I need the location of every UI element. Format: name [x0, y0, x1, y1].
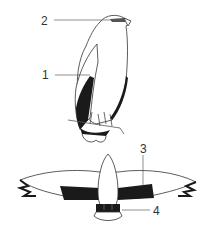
flying-eagle: [20, 154, 196, 221]
perched-eagle: [68, 15, 131, 142]
callout-4: 4: [153, 205, 160, 217]
callout-1: 1: [42, 69, 49, 81]
left-wing-band: [60, 186, 100, 200]
callout-2: 2: [41, 15, 48, 27]
flight-tail: [94, 212, 122, 221]
callout-3: 3: [140, 143, 147, 155]
eagle-diagram: [0, 0, 213, 236]
